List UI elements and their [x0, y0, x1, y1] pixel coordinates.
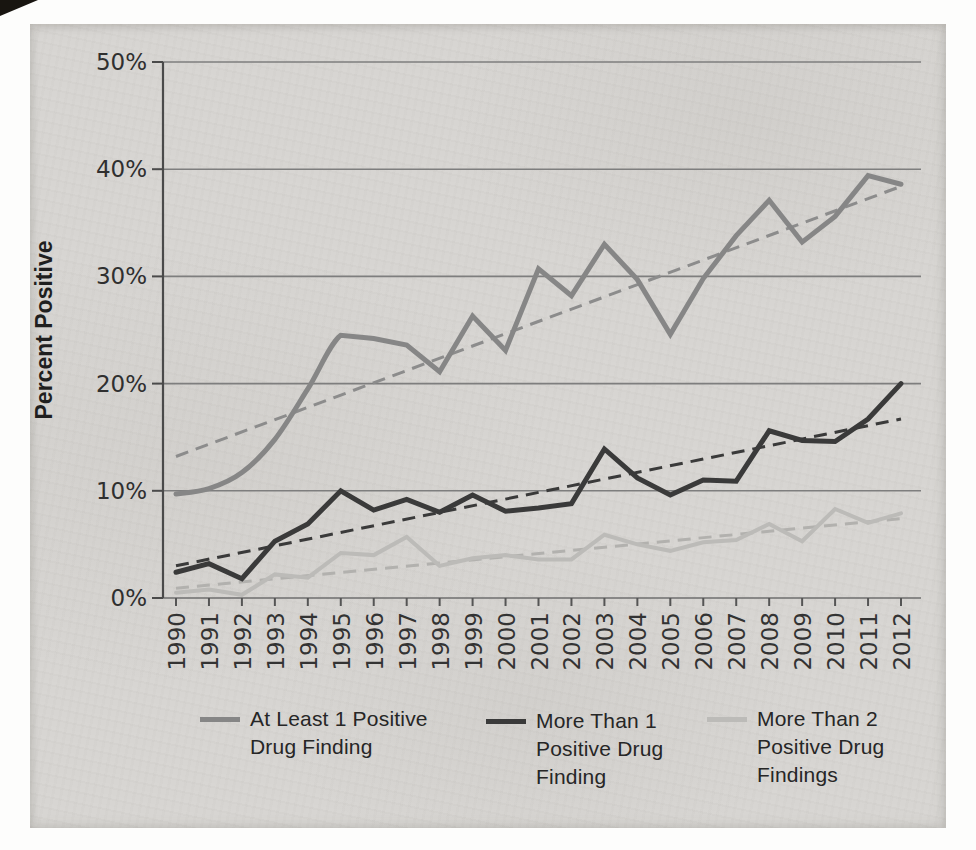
x-tick-label: 2011 [856, 612, 882, 671]
y-tick-label: 50% [96, 49, 147, 75]
x-tick-label: 1997 [395, 612, 421, 671]
x-tick-label: 2001 [527, 612, 553, 671]
x-tick-label: 2004 [625, 612, 651, 671]
x-tick-label: 1992 [230, 612, 256, 671]
y-tick-label: 0% [111, 585, 148, 611]
y-tick-label: 40% [96, 156, 147, 182]
trend-line-5 [176, 519, 901, 589]
x-tick-label: 1996 [362, 612, 388, 671]
x-tick-label: 2012 [889, 612, 915, 671]
scanned-page: 0%10%20%30%40%50%19901991199219931994199… [0, 0, 976, 850]
x-tick-label: 1990 [164, 612, 190, 671]
x-tick-label: 2000 [494, 612, 520, 671]
series-line-0 [176, 176, 901, 494]
y-axis-title: Percent Positive [31, 241, 57, 420]
x-tick-label: 2007 [724, 612, 750, 671]
trend-line-4 [176, 419, 901, 566]
x-tick-label: 2008 [757, 612, 783, 671]
x-tick-label: 2005 [658, 612, 684, 671]
x-tick-label: 1994 [296, 612, 322, 671]
x-tick-label: 2002 [559, 612, 585, 671]
x-tick-label: 2009 [790, 612, 816, 671]
series-line-1 [176, 384, 901, 579]
x-tick-label: 1995 [329, 612, 355, 671]
x-tick-label: 2010 [823, 612, 849, 671]
x-tick-label: 1991 [197, 612, 223, 671]
y-tick-label: 30% [96, 263, 147, 289]
y-tick-label: 10% [96, 478, 147, 504]
x-tick-label: 1998 [428, 612, 454, 671]
series-line-2 [176, 509, 901, 595]
x-tick-label: 2006 [691, 612, 717, 671]
y-tick-label: 20% [96, 371, 147, 397]
line-chart: 0%10%20%30%40%50%19901991199219931994199… [0, 0, 976, 850]
x-tick-label: 2003 [592, 612, 618, 671]
x-tick-label: 1999 [461, 612, 487, 671]
x-tick-label: 1993 [263, 612, 289, 671]
